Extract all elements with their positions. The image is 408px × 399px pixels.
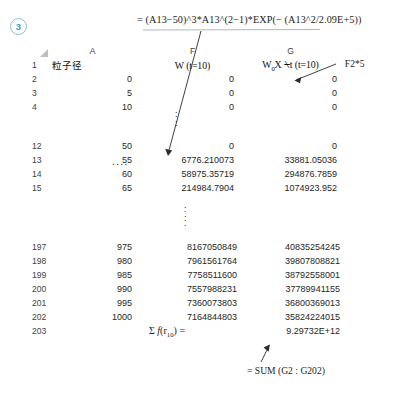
- cell-a15[interactable]: 65: [49, 181, 136, 195]
- cell-f2[interactable]: 0: [146, 72, 239, 86]
- table-row: 1 粒子径: [30, 58, 136, 72]
- cell-a12[interactable]: 50: [49, 139, 136, 153]
- formula-annotation-column-f: = (A13−50)^3*A13^(2−1)*EXP(− (A13^2/2.09…: [137, 14, 361, 25]
- cell-f199[interactable]: 7758511600: [146, 268, 242, 282]
- table-row: 202 1000: [30, 310, 136, 324]
- cell-a1[interactable]: 粒子径: [49, 58, 136, 72]
- table-row: 4 10: [30, 100, 136, 114]
- table-row: 7557988231 37789941155: [146, 282, 345, 296]
- row-header[interactable]: 197: [30, 240, 49, 254]
- row-header[interactable]: 203: [30, 324, 49, 338]
- cell-f12[interactable]: 0: [146, 139, 239, 153]
- cell-f200[interactable]: 7557988231: [146, 282, 242, 296]
- cell-f3[interactable]: 0: [146, 86, 239, 100]
- cell-a200[interactable]: 990: [49, 282, 136, 296]
- formula-annotation-sum: = SUM (G2 : G202): [247, 365, 325, 376]
- columns-fg-table-bottom: 8167050849 40835254245 7961561764 398078…: [146, 240, 345, 338]
- cell-g203-sum[interactable]: 9.29732E+12: [242, 324, 345, 338]
- columns-fg-table-top: F G W (t=10) W0X ⍀t (t=10) 0 0 0 0 0 0: [146, 44, 342, 114]
- cell-f198[interactable]: 7961561764: [146, 254, 242, 268]
- row-header[interactable]: 13: [30, 153, 49, 167]
- cell-a197[interactable]: 975: [49, 240, 136, 254]
- cell-f201[interactable]: 7360073803: [146, 296, 242, 310]
- table-row: 199 985: [30, 268, 136, 282]
- table-row: 7164844803 35824224015: [146, 310, 345, 324]
- column-header-a[interactable]: A: [49, 44, 136, 58]
- cell-g201[interactable]: 36800369013: [242, 296, 345, 310]
- row-header[interactable]: 4: [30, 100, 49, 114]
- row-header[interactable]: 1: [30, 58, 49, 72]
- spreadsheet-figure: 3 = (A13−50)^3*A13^(2−1)*EXP(− (A13^2/2.…: [0, 0, 408, 399]
- table-row: 200 990: [30, 282, 136, 296]
- cell-a3[interactable]: 5: [49, 86, 136, 100]
- row-header[interactable]: 200: [30, 282, 49, 296]
- table-row: 7758511600 38792558001: [146, 268, 345, 282]
- row-header[interactable]: 15: [30, 181, 49, 195]
- cell-g13[interactable]: 33881.05036: [239, 153, 342, 167]
- table-row: 14 60: [30, 167, 136, 181]
- table-row: 203: [30, 324, 136, 338]
- vertical-ellipsis-lower-f: .....: [184, 203, 187, 225]
- cell-g1-label[interactable]: W0X ⍀t (t=10): [239, 58, 342, 72]
- row-header[interactable]: 198: [30, 254, 49, 268]
- cell-a203[interactable]: [49, 324, 136, 338]
- cell-g3[interactable]: 0: [239, 86, 342, 100]
- table-row: 8167050849 40835254245: [146, 240, 345, 254]
- cell-f4[interactable]: 0: [146, 100, 239, 114]
- sum-row: Σ f(r10) = 9.29732E+12: [146, 324, 345, 338]
- table-row: 15 65: [30, 181, 136, 195]
- cell-a4[interactable]: 10: [49, 100, 136, 114]
- cell-g15[interactable]: 1074923.952: [239, 181, 342, 195]
- cell-f197[interactable]: 8167050849: [146, 240, 242, 254]
- cell-a201[interactable]: 995: [49, 296, 136, 310]
- cell-f15[interactable]: 214984.7904: [146, 181, 239, 195]
- table-row: 3 5: [30, 86, 136, 100]
- column-header-g[interactable]: G: [239, 44, 342, 58]
- cell-f1-label[interactable]: W (t=10): [146, 58, 239, 72]
- cell-g199[interactable]: 38792558001: [242, 268, 345, 282]
- cell-f13[interactable]: 6776.210073: [146, 153, 239, 167]
- select-all-corner[interactable]: [30, 44, 49, 58]
- cell-g4[interactable]: 0: [239, 100, 342, 114]
- cell-a198[interactable]: 980: [49, 254, 136, 268]
- column-a-table-bottom: 197 975 198 980 199 985 200 990 201 995 …: [30, 240, 136, 338]
- table-row: 6776.210073 33881.05036: [146, 153, 342, 167]
- row-header[interactable]: 14: [30, 167, 49, 181]
- column-header-row: A: [30, 44, 136, 58]
- column-a-table-top: A 1 粒子径 2 0 3 5 4 10: [30, 44, 136, 114]
- cell-g200[interactable]: 37789941155: [242, 282, 345, 296]
- table-row: 12 50: [30, 139, 136, 153]
- cell-g202[interactable]: 35824224015: [242, 310, 345, 324]
- step-number-badge: 3: [10, 18, 27, 35]
- cell-f14[interactable]: 58975.35719: [146, 167, 239, 181]
- cell-g2[interactable]: 0: [239, 72, 342, 86]
- cell-a199[interactable]: 985: [49, 268, 136, 282]
- table-row: W (t=10) W0X ⍀t (t=10): [146, 58, 342, 72]
- cell-g198[interactable]: 39807808821: [242, 254, 345, 268]
- table-row: 7961561764 39807808821: [146, 254, 345, 268]
- table-row: 58975.35719 294876.7859: [146, 167, 342, 181]
- table-row: 201 995: [30, 296, 136, 310]
- row-header[interactable]: 2: [30, 72, 49, 86]
- column-header-f[interactable]: F: [146, 44, 239, 58]
- table-row: 0 0: [146, 139, 342, 153]
- table-row: 2 0: [30, 72, 136, 86]
- row-header[interactable]: 201: [30, 296, 49, 310]
- cell-a14[interactable]: 60: [49, 167, 136, 181]
- cell-g14[interactable]: 294876.7859: [239, 167, 342, 181]
- row-header[interactable]: 3: [30, 86, 49, 100]
- column-a-table-middle: 12 50 13 55 14 60 15 65: [30, 139, 136, 195]
- table-row: 7360073803 36800369013: [146, 296, 345, 310]
- corner-triangle-icon: [40, 49, 48, 57]
- cell-f202[interactable]: 7164844803: [146, 310, 242, 324]
- cell-g197[interactable]: 40835254245: [242, 240, 345, 254]
- row-header[interactable]: 202: [30, 310, 49, 324]
- table-row: 197 975: [30, 240, 136, 254]
- cell-a2[interactable]: 0: [49, 72, 136, 86]
- cell-g12[interactable]: 0: [239, 139, 342, 153]
- row-header[interactable]: 199: [30, 268, 49, 282]
- table-row: 0 0: [146, 86, 342, 100]
- row-header[interactable]: 12: [30, 139, 49, 153]
- cell-a202[interactable]: 1000: [49, 310, 136, 324]
- column-header-row: F G: [146, 44, 342, 58]
